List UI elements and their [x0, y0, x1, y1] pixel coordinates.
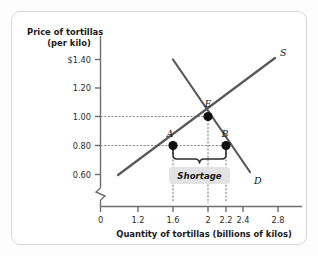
chart-panel: $1.40 1.20 1.00 0.80 0.60 0 1.2 1.6 2 2.…	[11, 11, 307, 245]
data-point-e[interactable]	[203, 112, 212, 121]
x-tick-label-2: 2	[205, 215, 210, 225]
x-tick-label-2-8: 2.8	[271, 215, 284, 225]
shortage-annotation: Shortage	[169, 167, 230, 184]
figure-container: $1.40 1.20 1.00 0.80 0.60 0 1.2 1.6 2 2.…	[0, 0, 318, 256]
shortage-label: Shortage	[177, 171, 222, 181]
y-tick-label-1-40: $1.40	[68, 55, 91, 65]
y-tick-label-1-00: 1.00	[73, 112, 91, 122]
demand-curve-label: D	[253, 175, 262, 186]
data-points: A E B	[166, 99, 231, 150]
y-axis-title-line2: (per kilo)	[47, 38, 91, 48]
data-point-e-label: E	[204, 99, 212, 109]
y-tick-label-0-80: 0.80	[73, 141, 91, 151]
y-tick-label-1-20: 1.20	[73, 83, 91, 93]
data-point-b-label: B	[221, 129, 229, 139]
y-axis-ticks: $1.40 1.20 1.00 0.80 0.60	[68, 55, 101, 180]
data-point-a-label: A	[166, 129, 174, 139]
x-axis-ticks: 0 1.2 1.6 2 2.2 2.4 2.8	[98, 207, 285, 226]
y-axis-title-line1: Price of tortillas	[27, 27, 103, 37]
x-tick-label-1-2: 1.2	[131, 215, 144, 225]
x-tick-label-2-4: 2.4	[236, 215, 249, 225]
data-point-a[interactable]	[168, 141, 177, 150]
data-point-b[interactable]	[221, 141, 230, 150]
x-tick-label-1-6: 1.6	[166, 215, 179, 225]
supply-curve-label: S	[280, 47, 287, 58]
x-axis-title: Quantity of tortillas (billions of kilos…	[116, 229, 292, 239]
shortage-brace	[173, 149, 226, 163]
y-tick-label-0-60: 0.60	[73, 170, 91, 180]
y-axis-break-icon	[96, 188, 105, 200]
x-tick-label-0: 0	[98, 215, 103, 225]
supply-demand-chart: $1.40 1.20 1.00 0.80 0.60 0 1.2 1.6 2 2.…	[12, 12, 308, 246]
x-tick-label-2-2: 2.2	[219, 215, 232, 225]
